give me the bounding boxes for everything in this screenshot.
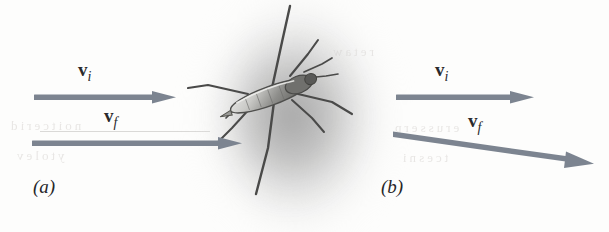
background-halo [176, 0, 406, 232]
vector-arrow-b-vf [388, 124, 604, 176]
vector-symbol: v [435, 59, 445, 80]
vector-label-a-vf: vf [104, 105, 117, 127]
vector-symbol: v [78, 59, 88, 80]
vector-label-b-vi: vi [435, 59, 448, 81]
vector-arrow-a-vf [28, 131, 248, 155]
water-strider-insect [186, 2, 376, 202]
vector-subscript: f [478, 120, 482, 135]
vector-symbol: v [104, 105, 114, 126]
bleed-through-artifact: tcesni [400, 150, 448, 166]
figure-canvas: noitcerid ytolev erusserp tcesni retaw [0, 0, 609, 232]
bleed-through-artifact: ytolev [14, 148, 65, 164]
vector-label-b-vf: vf [468, 110, 481, 132]
panel-caption-a: (a) [33, 176, 55, 198]
vector-label-a-vi: vi [78, 59, 91, 81]
vector-subscript: i [445, 69, 449, 84]
bleed-through-artifact: retaw [330, 44, 374, 60]
bleed-through-artifact: erusserp [392, 120, 459, 136]
vector-subscript: f [114, 115, 118, 130]
scan-rule-artifact [40, 131, 210, 132]
vector-subscript: i [88, 69, 92, 84]
background-halo-inner [205, 22, 370, 212]
panel-caption-b: (b) [381, 176, 403, 198]
vector-arrow-b-vi [392, 85, 538, 109]
vector-symbol: v [468, 110, 478, 131]
